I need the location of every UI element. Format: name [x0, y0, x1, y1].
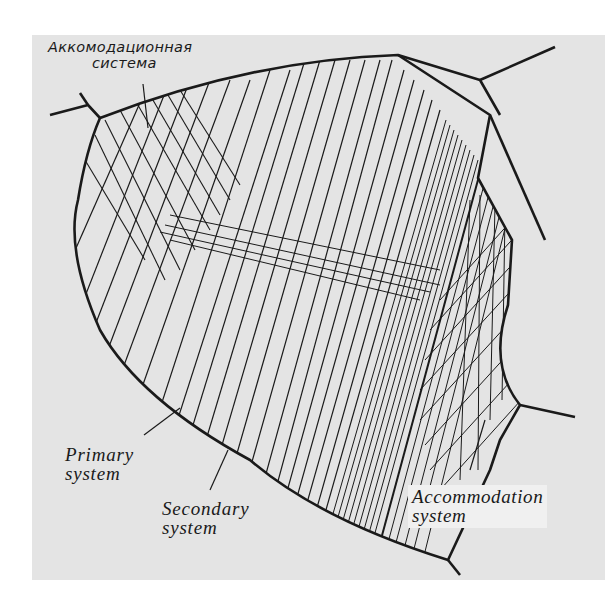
- leader-lines: [143, 84, 485, 490]
- label-line-1: Primary: [65, 445, 134, 464]
- slip-systems-diagram: Аккомодационная система Primary system S…: [32, 35, 605, 580]
- label-line-1: Аккомодационная: [48, 40, 192, 55]
- right-crosshatch: [420, 195, 530, 490]
- label-primary-system: Primary system: [65, 445, 134, 483]
- label-line-2: system: [65, 464, 134, 483]
- label-secondary-system: Secondary system: [162, 499, 249, 537]
- label-russian-accommodation-system: Аккомодационная система: [48, 40, 192, 70]
- label-accommodation-system: Accommodation system: [408, 485, 547, 528]
- label-line-2: system: [412, 506, 543, 525]
- label-line-2: system: [162, 518, 249, 537]
- label-line-1: Accommodation: [412, 487, 543, 506]
- label-line-2: система: [48, 56, 192, 71]
- label-line-1: Secondary: [162, 499, 249, 518]
